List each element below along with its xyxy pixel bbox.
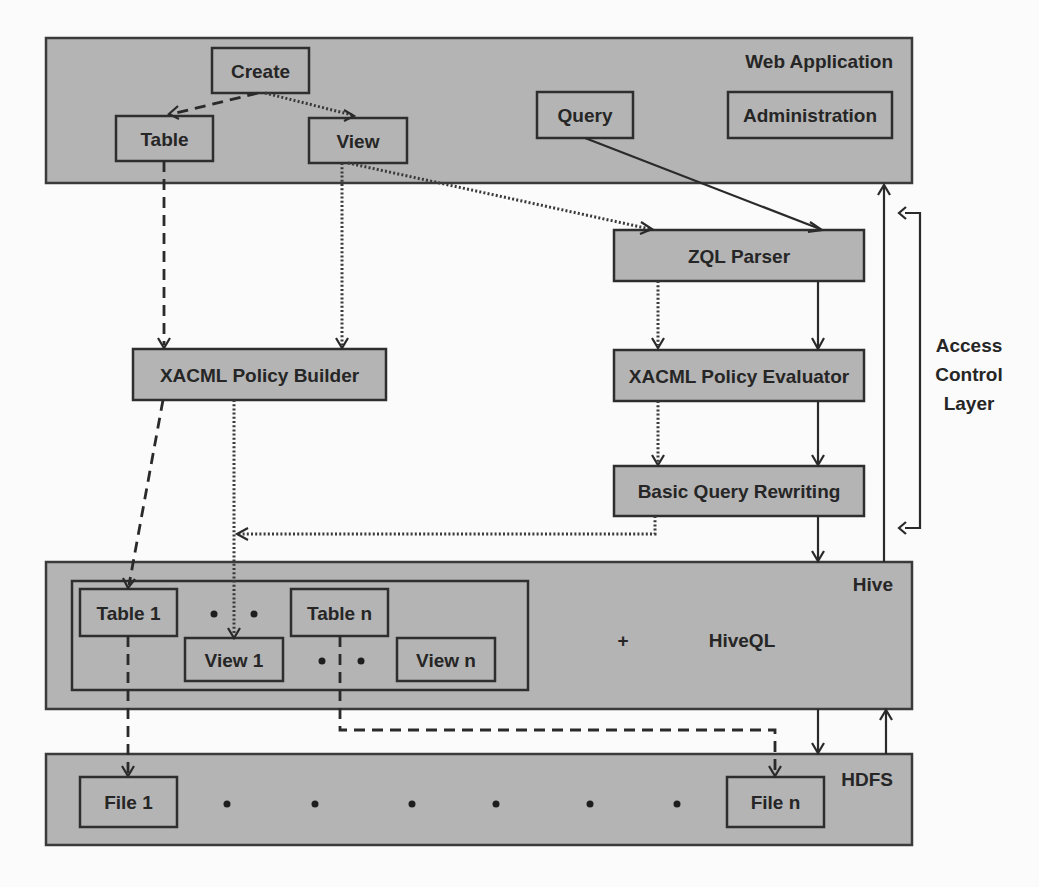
arrowhead: [652, 338, 664, 348]
view-1-node[interactable]: View 1: [185, 638, 283, 681]
file-n-label: File n: [751, 792, 801, 813]
ellipsis-dot: [587, 801, 594, 808]
ellipsis-dot: [319, 658, 326, 665]
view-n-node[interactable]: View n: [397, 638, 495, 681]
table-1-label: Table 1: [96, 603, 160, 624]
file-1-node[interactable]: File 1: [80, 777, 177, 827]
policy-evaluator-label: XACML Policy Evaluator: [629, 366, 850, 387]
access-control-bracket: [905, 213, 920, 528]
policy-evaluator-node[interactable]: XACML Policy Evaluator: [614, 350, 864, 401]
ellipsis-dot: [312, 801, 319, 808]
access-control-layer: ZQL Parser XACML Policy Evaluator Basic …: [133, 207, 1003, 534]
hive-title: Hive: [853, 574, 893, 595]
file-1-label: File 1: [104, 792, 153, 813]
edge-rewriting-policy: [238, 516, 655, 534]
create-label: Create: [231, 61, 290, 82]
view-n-label: View n: [416, 650, 476, 671]
bracket-arrowhead-bottom: [899, 522, 906, 534]
view-node[interactable]: View: [309, 118, 407, 163]
file-n-node[interactable]: File n: [727, 777, 824, 827]
view-1-label: View 1: [205, 650, 264, 671]
ellipsis-dot: [409, 801, 416, 808]
zql-parser-node[interactable]: ZQL Parser: [614, 230, 864, 281]
plus-sign: +: [617, 630, 628, 651]
table-label: Table: [140, 129, 188, 150]
query-label: Query: [558, 105, 613, 126]
hdfs-title: HDFS: [841, 769, 893, 790]
edge-policy-table1: [129, 400, 163, 585]
bracket-arrowhead-top: [899, 207, 906, 219]
hiveql-label: HiveQL: [709, 630, 776, 651]
hdfs-layer: HDFS File 1 File n: [46, 754, 912, 845]
administration-node[interactable]: Administration: [728, 92, 892, 138]
table-1-node[interactable]: Table 1: [80, 589, 177, 636]
web-application-layer: Web Application Create Table View Query …: [46, 38, 912, 183]
ellipsis-dot: [211, 611, 218, 618]
arrowhead: [237, 528, 248, 540]
ellipsis-dot: [224, 801, 231, 808]
create-node[interactable]: Create: [212, 48, 309, 93]
policy-builder-node[interactable]: XACML Policy Builder: [133, 349, 386, 400]
query-rewriting-node[interactable]: Basic Query Rewriting: [614, 466, 864, 516]
query-node[interactable]: Query: [537, 92, 633, 138]
policy-builder-label: XACML Policy Builder: [160, 365, 360, 386]
access-control-title-line-1: Access: [936, 335, 1003, 356]
ellipsis-dot: [493, 801, 500, 808]
ellipsis-dot: [674, 801, 681, 808]
table-node[interactable]: Table: [116, 116, 213, 161]
access-control-title-line-3: Layer: [944, 393, 995, 414]
table-n-node[interactable]: Table n: [291, 589, 388, 636]
view-label: View: [337, 131, 380, 152]
architecture-diagram: Web Application Create Table View Query …: [0, 0, 1039, 887]
administration-label: Administration: [743, 105, 877, 126]
web-application-title: Web Application: [745, 51, 893, 72]
table-n-label: Table n: [307, 603, 372, 624]
ellipsis-dot: [251, 611, 258, 618]
query-rewriting-label: Basic Query Rewriting: [638, 481, 841, 502]
hive-layer: Hive Table 1 Table n View 1 View n + Hiv…: [46, 562, 912, 709]
zql-parser-label: ZQL Parser: [688, 246, 791, 267]
access-control-title-line-2: Control: [935, 364, 1003, 385]
ellipsis-dot: [358, 658, 365, 665]
